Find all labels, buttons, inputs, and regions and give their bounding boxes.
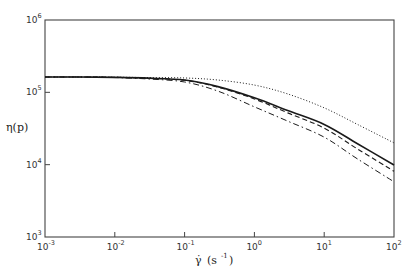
y-tick-label: 105 xyxy=(26,84,42,97)
viscosity-shear-rate-chart: 10-310-210-1100101102 103104105106 η(p) … xyxy=(0,0,409,271)
y-axis-ticks: 103104105106 xyxy=(26,12,50,242)
x-tick-label: 10-1 xyxy=(177,239,195,252)
x-axis-label-units: (s xyxy=(207,254,217,267)
x-tick-label: 10-2 xyxy=(107,239,125,252)
series-dash-dot-line xyxy=(45,77,394,182)
data-series xyxy=(45,77,394,182)
x-tick-label: 100 xyxy=(246,239,262,252)
x-axis-label-close: ) xyxy=(229,254,233,267)
y-axis-label: η(p) xyxy=(6,121,28,134)
y-tick-label: 103 xyxy=(26,229,42,242)
series-solid-line xyxy=(45,77,394,165)
y-tick-label: 104 xyxy=(26,157,42,170)
x-axis-label: γ̇ (s -1 ) xyxy=(195,252,233,267)
x-tick-label: 102 xyxy=(386,239,402,252)
plot-frame xyxy=(45,20,394,237)
x-tick-label: 10-3 xyxy=(37,239,55,252)
y-tick-label: 106 xyxy=(26,12,42,25)
x-tick-label: 101 xyxy=(316,239,332,252)
series-dashed-line xyxy=(45,77,394,171)
x-axis-label-exponent: -1 xyxy=(221,252,228,260)
x-axis-ticks: 10-310-210-1100101102 xyxy=(37,232,402,252)
x-axis-label-gamma: γ̇ xyxy=(195,254,202,267)
